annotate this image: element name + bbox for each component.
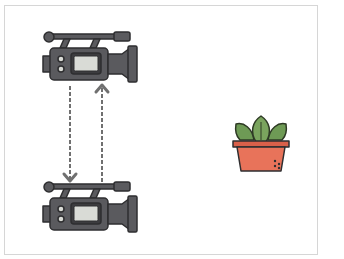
dashed-arrow-up-icon [92, 80, 112, 186]
dashed-arrow-down-icon [60, 84, 80, 188]
potted-plant-icon [230, 114, 292, 174]
video-camera-bottom-icon [40, 180, 140, 236]
video-camera-top-icon [40, 30, 140, 86]
